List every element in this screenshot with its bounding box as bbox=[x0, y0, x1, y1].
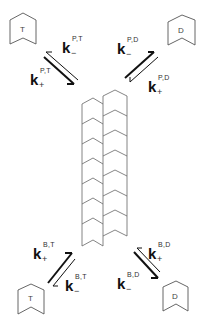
k-symbol: k bbox=[62, 39, 70, 56]
k-symbol: k bbox=[117, 275, 125, 292]
superscript: P,D bbox=[158, 74, 170, 81]
sign: − bbox=[74, 287, 79, 296]
k-symbol: k bbox=[117, 40, 125, 57]
superscript: P,T bbox=[72, 35, 83, 42]
sign: + bbox=[42, 255, 47, 264]
rate-k-plus-p-d: k P,D + bbox=[148, 79, 156, 95]
k-symbol: k bbox=[148, 78, 156, 95]
rate-k-minus-p-d: k P,D − bbox=[117, 41, 125, 57]
sign: − bbox=[126, 50, 131, 59]
sign: + bbox=[157, 255, 162, 264]
subunit-bottom-right-d: D bbox=[163, 281, 188, 311]
rate-k-minus-p-t: k P,T − bbox=[62, 40, 70, 56]
subunit-letter: D bbox=[178, 26, 184, 35]
sign: − bbox=[126, 285, 131, 294]
rate-k-plus-b-t: k B,T + bbox=[33, 246, 41, 262]
superscript: B,D bbox=[127, 271, 140, 278]
subunit-bottom-left-t: T bbox=[18, 284, 44, 314]
diagram-canvas: T D T D bbox=[0, 0, 206, 329]
k-symbol: k bbox=[148, 245, 156, 262]
k-symbol: k bbox=[33, 245, 41, 262]
k-symbol: k bbox=[65, 277, 73, 294]
superscript: P,D bbox=[127, 36, 139, 43]
subunit-top-left-t: T bbox=[10, 13, 36, 44]
sign: + bbox=[157, 88, 162, 97]
sign: − bbox=[71, 49, 76, 58]
rate-k-plus-b-d: k B,D + bbox=[148, 246, 156, 262]
rate-k-plus-p-t: k P,T + bbox=[30, 72, 38, 88]
rate-k-minus-b-d: k B,D − bbox=[117, 276, 125, 292]
subunit-letter: T bbox=[20, 25, 25, 34]
subunit-letter: D bbox=[172, 292, 178, 301]
subunit-letter: T bbox=[28, 294, 33, 303]
superscript: B,D bbox=[158, 241, 171, 248]
sign: + bbox=[39, 81, 44, 90]
superscript: B,T bbox=[43, 241, 55, 248]
k-symbol: k bbox=[30, 71, 38, 88]
polymer-lattice bbox=[82, 90, 127, 246]
superscript: P,T bbox=[40, 67, 51, 74]
superscript: B,T bbox=[75, 273, 87, 280]
rate-k-minus-b-t: k B,T − bbox=[65, 278, 73, 294]
subunit-top-right-d: D bbox=[168, 15, 195, 45]
